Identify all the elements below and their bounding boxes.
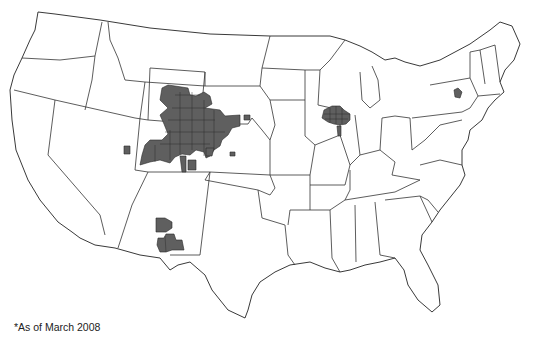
us-map xyxy=(0,0,536,347)
shaded-region-utah xyxy=(124,146,130,154)
us-outline xyxy=(10,12,520,318)
footnote: *As of March 2008 xyxy=(14,321,100,333)
